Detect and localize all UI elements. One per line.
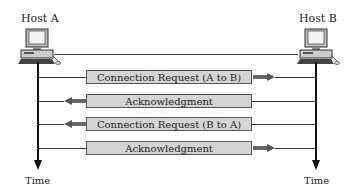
host-b-computer-icon bbox=[296, 28, 340, 70]
host-a-time-arrow-icon bbox=[34, 160, 42, 170]
host-a-label: Host A bbox=[21, 12, 59, 25]
message-2-line-right bbox=[252, 101, 315, 102]
network-link-line bbox=[54, 54, 298, 55]
message-4-box: Acknowledgment bbox=[86, 141, 252, 155]
message-3-box: Connection Request (B to A) bbox=[86, 117, 252, 131]
message-3-line-right bbox=[252, 124, 315, 125]
message-1-box: Connection Request (A to B) bbox=[86, 70, 252, 84]
message-4-arrow-right-icon bbox=[253, 144, 275, 152]
host-b-time-label: Time bbox=[304, 175, 329, 186]
message-1-line-left bbox=[38, 77, 86, 78]
host-b-label: Host B bbox=[299, 12, 337, 25]
message-1-arrow-right-icon bbox=[253, 73, 275, 81]
message-3-arrow-left-icon bbox=[64, 120, 86, 128]
host-a-computer-icon bbox=[17, 28, 61, 70]
message-3-line-left bbox=[38, 124, 64, 125]
message-2-line-left bbox=[38, 101, 64, 102]
message-1-line-right bbox=[275, 77, 315, 78]
host-a-time-label: Time bbox=[25, 175, 50, 186]
host-b-timeline bbox=[315, 62, 317, 162]
message-2-arrow-left-icon bbox=[64, 97, 86, 105]
host-b-time-arrow-icon bbox=[312, 160, 320, 170]
message-2-box: Acknowledgment bbox=[86, 94, 252, 108]
message-4-line-left bbox=[38, 148, 86, 149]
message-4-line-right bbox=[275, 148, 315, 149]
